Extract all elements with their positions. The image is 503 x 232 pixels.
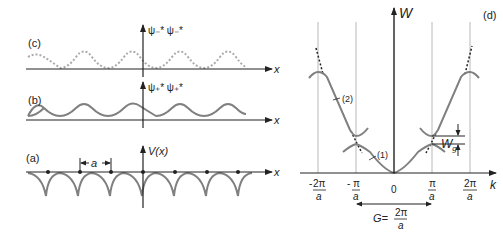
panel-d-label: (d) xyxy=(483,9,496,21)
svg-text:-: - xyxy=(347,178,350,189)
tick-minus-2pi-a: - 2π a xyxy=(309,178,326,202)
panel-b-xlabel: x xyxy=(273,114,280,126)
svg-text:a: a xyxy=(316,191,322,202)
svg-text:π: π xyxy=(429,178,436,189)
panel-c-label: (c) xyxy=(28,37,41,49)
svg-text:2π: 2π xyxy=(395,207,408,218)
tick-zero: 0 xyxy=(391,184,397,195)
panel-d: Wg W k (d) (2) (1) - 2π a - π a xyxy=(300,5,497,231)
band-structure-figure: (c) ψ₋* ψ₋* x (b) ψ₊* ψ₊* x a (a) V(x) xyxy=(0,0,503,232)
panel-c: (c) ψ₋* ψ₋* x xyxy=(26,25,280,77)
svg-text:a: a xyxy=(398,220,404,231)
tick-2pi-a: 2π a xyxy=(463,178,477,202)
w-axis-label: W xyxy=(399,5,414,21)
panel-b-ylabel: ψ₊* ψ₊* xyxy=(148,82,183,93)
panel-a-label: (a) xyxy=(26,152,39,164)
panel-b: (b) ψ₊* ψ₊* x xyxy=(26,82,280,128)
gap-label: Wg xyxy=(441,137,457,153)
svg-text:2π: 2π xyxy=(313,178,326,189)
lattice-spacing-marker: a xyxy=(80,157,111,172)
svg-text:0: 0 xyxy=(391,184,397,195)
band-2-label: (2) xyxy=(342,94,353,104)
panel-b-label: (b) xyxy=(28,94,41,106)
k-tick-labels: - 2π a - π a 0 π a 2π a xyxy=(309,178,477,202)
panel-a: a (a) V(x) x xyxy=(26,145,280,208)
svg-text:a: a xyxy=(353,191,359,202)
band-gap-marker: Wg xyxy=(432,124,465,156)
tick-pi-a: π a xyxy=(428,178,436,202)
tick-minus-pi-a: - π a xyxy=(347,178,360,202)
panel-a-xlabel: x xyxy=(273,166,280,178)
density-plus-curve xyxy=(28,103,246,116)
reciprocal-vector-G: G= 2π a xyxy=(357,204,431,231)
svg-text:2π: 2π xyxy=(464,178,477,189)
svg-text:a: a xyxy=(429,191,435,202)
band-1-label: (1) xyxy=(377,150,388,160)
k-axis-label: k xyxy=(490,178,497,192)
svg-text:-: - xyxy=(309,178,312,189)
svg-text:π: π xyxy=(353,178,360,189)
panel-a-ylabel: V(x) xyxy=(148,145,169,157)
potential-curve xyxy=(28,173,252,196)
panel-c-xlabel: x xyxy=(273,63,280,75)
svg-text:a: a xyxy=(467,191,473,202)
panel-c-ylabel: ψ₋* ψ₋* xyxy=(148,25,183,36)
G-label: G= xyxy=(373,212,389,224)
spacing-a-label: a xyxy=(91,157,97,169)
density-minus-curve xyxy=(28,52,246,69)
